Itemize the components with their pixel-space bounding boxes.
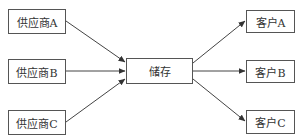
supplier-b-label: 供应商B [16, 64, 57, 80]
arrow-supplier-a-to-storage [66, 21, 125, 62]
arrow-storage-to-customer-a [193, 21, 245, 63]
customer-b-node: 客户B [246, 60, 295, 83]
storage-label: 储存 [149, 63, 171, 79]
customer-a-label: 客户A [256, 14, 286, 30]
supplier-a-node: 供应商A [8, 9, 66, 34]
supplier-a-label: 供应商A [17, 14, 58, 30]
storage-node: 储存 [126, 58, 193, 84]
arrow-storage-to-customer-c [193, 79, 245, 121]
supplier-c-node: 供应商C [8, 110, 66, 135]
supplier-b-node: 供应商B [8, 59, 66, 84]
customer-b-label: 客户B [255, 64, 285, 80]
supplier-c-label: 供应商C [16, 115, 57, 131]
arrow-supplier-c-to-storage [66, 79, 125, 122]
customer-a-node: 客户A [246, 10, 295, 33]
customer-c-node: 客户C [246, 110, 295, 134]
customer-c-label: 客户C [255, 114, 285, 130]
